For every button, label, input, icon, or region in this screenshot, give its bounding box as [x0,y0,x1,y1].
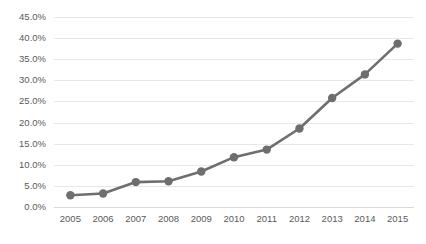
series-line [70,44,397,196]
data-point-marker: 2008: 6.1% [164,177,172,185]
data-point-marker: 2009: 8.4% [197,167,205,175]
data-point-marker: 2015: 38.7% [393,39,401,47]
data-point-marker: 2005: 2.8% [66,191,74,199]
line-chart: 0.0%5.0%10.0%15.0%20.0%25.0%30.0%35.0%40… [0,0,426,244]
data-point-marker: 2014: 31.4% [361,70,369,78]
data-point-marker: 2013: 25.8% [328,94,336,102]
data-point-marker: 2007: 5.9% [132,178,140,186]
series-line-layer: 2005: 2.8%2006: 3.2%2007: 5.9%2008: 6.1%… [0,0,426,244]
data-point-marker: 2006: 3.2% [99,189,107,197]
data-point-marker: 2011: 13.6% [263,145,271,153]
data-point-marker: 2012: 18.6% [295,124,303,132]
data-point-marker: 2010: 11.8% [230,153,238,161]
